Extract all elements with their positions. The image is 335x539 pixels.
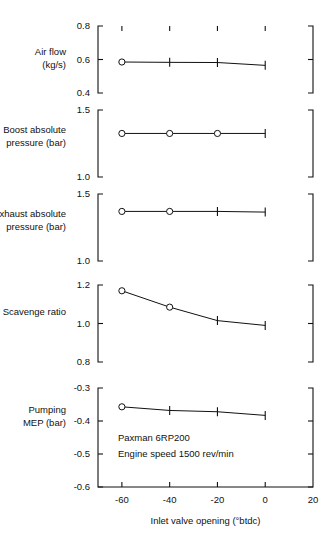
panel-right-spine (308, 388, 313, 487)
y-tick-label: 1.2 (77, 279, 90, 290)
figure-canvas: 0.40.60.8Air flow(kg/s)1.01.5Boost absol… (0, 0, 335, 539)
x-tick-label: -40 (163, 494, 177, 505)
y-tick-label: -0.4 (74, 415, 90, 426)
y-tick-label: 0.6 (77, 54, 90, 65)
data-point-marker (167, 130, 173, 136)
data-point-marker (167, 304, 173, 310)
data-point-marker (119, 404, 125, 410)
x-tick-label: -60 (115, 494, 129, 505)
panel-left-spine (98, 110, 103, 177)
data-point-marker (214, 130, 220, 136)
data-point-marker (119, 130, 125, 136)
x-tick-label: 0 (263, 494, 268, 505)
multi-panel-line-chart: 0.40.60.8Air flow(kg/s)1.01.5Boost absol… (0, 0, 335, 539)
panel-axis-label: Air flow (35, 46, 66, 57)
y-tick-label: 1.0 (77, 255, 90, 266)
x-axis-title: Inlet valve opening (°btdc) (151, 515, 261, 526)
panel-boost-absolute-pressure: 1.01.5Boost absolutepressure (bar) (3, 104, 313, 182)
panel-right-spine (308, 110, 313, 177)
y-tick-label: -0.3 (74, 382, 90, 393)
y-tick-label: 0.4 (77, 87, 90, 98)
x-tick-label: 20 (308, 494, 319, 505)
panel-right-spine (308, 194, 313, 261)
panel-axis-label: MEP (bar) (23, 417, 66, 428)
panel-pumping-mep: -0.6-0.5-0.4-0.3-60-40-20020PumpingMEP (… (23, 382, 318, 505)
panel-axis-label: Exhaust absolute (0, 208, 66, 219)
panel-axis-label: Pumping (29, 404, 67, 415)
panel-exhaust-absolute-pressure: 1.01.5Exhaust absolutepressure (bar) (0, 188, 313, 266)
data-series-line (122, 211, 265, 212)
panel-axis-label: pressure (bar) (6, 221, 66, 232)
data-series-line (122, 62, 265, 65)
data-series-line (122, 407, 265, 416)
panel-left-spine (98, 388, 103, 487)
y-tick-label: -0.6 (74, 481, 90, 492)
panel-axis-label: pressure (bar) (6, 137, 66, 148)
panel-axis-label: (kg/s) (42, 59, 66, 70)
panel-axis-label: Boost absolute (3, 124, 66, 135)
data-point-marker (167, 208, 173, 214)
panel-left-spine (98, 194, 103, 261)
panel-scavenge-ratio: 0.81.01.2Scavenge ratio (3, 279, 313, 367)
data-series-line (122, 291, 265, 326)
annotation-engine-speed: Engine speed 1500 rev/min (118, 448, 234, 459)
panel-axis-label: Scavenge ratio (3, 306, 66, 317)
y-tick-label: 1.5 (77, 188, 90, 199)
panel-air-flow: 0.40.60.8Air flow(kg/s) (35, 20, 313, 98)
x-tick-label: -20 (211, 494, 225, 505)
y-tick-label: 0.8 (77, 356, 90, 367)
y-tick-label: 1.0 (77, 318, 90, 329)
y-tick-label: 1.0 (77, 171, 90, 182)
annotation-group: Paxman 6RP200Engine speed 1500 rev/min (118, 432, 234, 459)
data-point-marker (119, 59, 125, 65)
y-tick-label: -0.5 (74, 448, 90, 459)
data-point-marker (119, 288, 125, 294)
y-tick-label: 0.8 (77, 20, 90, 31)
y-tick-label: 1.5 (77, 104, 90, 115)
data-point-marker (119, 208, 125, 214)
annotation-engine-model: Paxman 6RP200 (118, 432, 190, 443)
